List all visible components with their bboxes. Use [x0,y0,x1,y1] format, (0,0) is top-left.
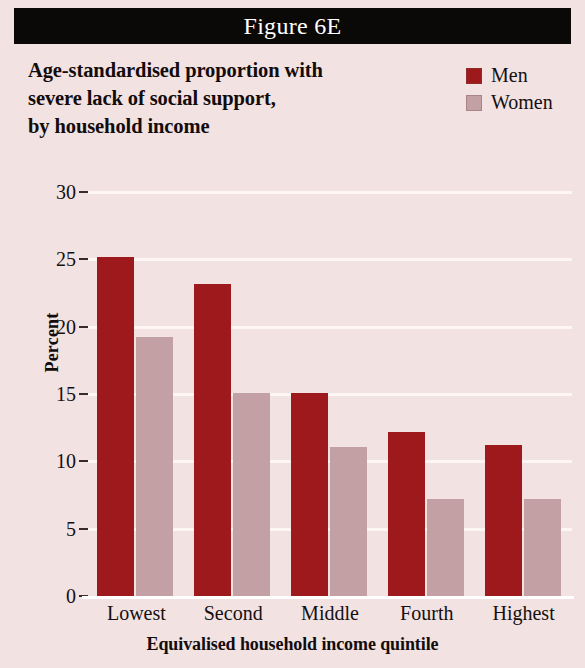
bar-highest-men [485,445,522,596]
y-axis-tick-label: 10 [32,450,76,473]
bar-middle-men [291,393,328,596]
gridline [88,191,572,194]
bar-middle-women [330,447,367,596]
y-axis-tick-label: 15 [32,383,76,406]
plot-area-wrapper: Percent 051015202530 LowestSecondMiddleF… [0,0,585,668]
x-axis-title: Equivalised household income quintile [0,634,585,655]
y-axis-tick [79,191,88,193]
y-axis-tick-label: 30 [32,181,76,204]
bar-fourth-men [388,432,425,596]
figure-panel: Figure 6E Age-standardised proportion wi… [0,0,585,668]
x-axis-tick-label-lowest: Lowest [88,602,185,625]
y-axis-tick-label: 0 [32,585,76,608]
bar-second-women [233,393,270,596]
y-axis-tick [79,326,88,328]
x-axis-baseline [82,596,574,599]
gridline [88,326,572,329]
bar-highest-women [524,499,561,596]
plot-area [88,192,572,596]
x-axis-tick-label-fourth: Fourth [378,602,475,625]
bar-fourth-women [427,499,464,596]
bar-lowest-women [136,337,173,596]
bar-lowest-men [97,257,134,596]
y-axis-tick [79,528,88,530]
y-axis-tick-label: 5 [32,517,76,540]
bar-second-men [194,284,231,596]
x-axis-tick-label-second: Second [185,602,282,625]
y-axis-tick-labels: 051015202530 [16,192,76,596]
gridline [88,258,572,261]
y-axis-tick [79,460,88,462]
y-axis-tick [79,258,88,260]
x-axis-tick-labels: LowestSecondMiddleFourthHighest [88,602,572,630]
y-axis-tick [79,393,88,395]
y-axis-tick-label: 20 [32,315,76,338]
x-axis-tick-label-highest: Highest [475,602,572,625]
x-axis-tick-label-middle: Middle [282,602,379,625]
y-axis-tick-label: 25 [32,248,76,271]
